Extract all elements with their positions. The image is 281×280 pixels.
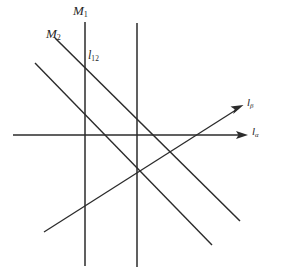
- diagram-canvas: [0, 0, 281, 280]
- label-l-alpha-subscript: α: [255, 131, 259, 138]
- label-m2-subscript: 2: [57, 33, 61, 42]
- label-l-beta-subscript: β: [250, 102, 254, 109]
- label-l12: l12: [88, 49, 99, 61]
- label-m2: M2: [46, 27, 61, 40]
- label-m1-subscript: 1: [84, 10, 88, 19]
- label-m1: M1: [73, 4, 88, 17]
- label-l-beta: lβ: [247, 97, 254, 108]
- axis-l-beta-shaft: [44, 108, 239, 232]
- axis-l-beta: [44, 105, 244, 232]
- axis-l-alpha: [13, 131, 248, 139]
- label-l-alpha: lα: [252, 126, 259, 137]
- label-l12-subscript: 12: [91, 54, 99, 63]
- geometry-diagram: M1 M2 l12 lβ lα: [0, 0, 281, 280]
- descending-line-l12: [55, 38, 240, 221]
- label-m1-base: M: [73, 3, 84, 18]
- label-m2-base: M: [46, 26, 57, 41]
- descending-line-parallel: [35, 63, 212, 245]
